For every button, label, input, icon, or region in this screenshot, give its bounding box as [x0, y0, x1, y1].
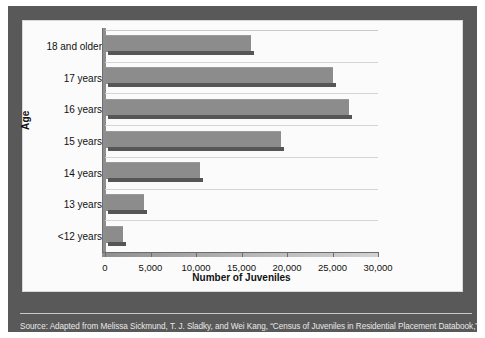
y-axis-tick-label: 14 years: [64, 167, 102, 178]
bar: [105, 35, 251, 52]
figure-container: Age 18 and older17 years16 years15 years…: [0, 0, 485, 338]
bar-shadow: [108, 115, 352, 119]
bar-face: [105, 162, 200, 179]
source-note: Source: Adapted from Melissa Sickmund, T…: [20, 322, 480, 331]
x-axis-tick: [333, 252, 334, 257]
bar-face: [105, 226, 123, 243]
y-axis-tick-label: 17 years: [64, 72, 102, 83]
x-axis-tick: [378, 252, 379, 257]
x-axis-tick: [242, 252, 243, 257]
bar: [105, 131, 281, 148]
bar: [105, 226, 123, 243]
bar-face: [105, 131, 281, 148]
gridline: [105, 93, 378, 94]
x-axis-tick: [105, 252, 106, 257]
y-axis-tick-label: <12 years: [58, 231, 102, 242]
gridline: [105, 30, 378, 31]
gridline: [105, 189, 378, 190]
x-axis-title: Number of Juveniles: [105, 272, 378, 283]
x-axis-tick: [151, 252, 152, 257]
bar-face: [105, 99, 349, 116]
bar: [105, 194, 144, 211]
bar-shadow: [108, 242, 126, 246]
bar: [105, 67, 333, 84]
plot-area: 05,00010,00015,00020,00025,00030,000: [105, 30, 378, 252]
gridline: [105, 125, 378, 126]
source-divider: [20, 313, 472, 314]
gridline: [105, 62, 378, 63]
y-axis-tick-label: 13 years: [64, 199, 102, 210]
x-axis-tick: [196, 252, 197, 257]
bar-shadow: [108, 51, 254, 55]
y-axis-tick-label: 16 years: [64, 104, 102, 115]
y-axis-tick-label: 18 and older: [46, 40, 102, 51]
bar: [105, 99, 349, 116]
bar-shadow: [108, 178, 203, 182]
bar-face: [105, 35, 251, 52]
gridline: [105, 157, 378, 158]
bar-shadow: [108, 83, 336, 87]
x-axis-spine: [102, 252, 379, 257]
y-axis-tick-label: 15 years: [64, 136, 102, 147]
bar-face: [105, 67, 333, 84]
gridline: [105, 220, 378, 221]
bar-face: [105, 194, 144, 211]
x-axis-tick: [287, 252, 288, 257]
bar-shadow: [108, 147, 284, 151]
y-axis-tick-labels: 18 and older17 years16 years15 years14 y…: [26, 30, 102, 252]
bar: [105, 162, 200, 179]
bar-shadow: [108, 210, 147, 214]
